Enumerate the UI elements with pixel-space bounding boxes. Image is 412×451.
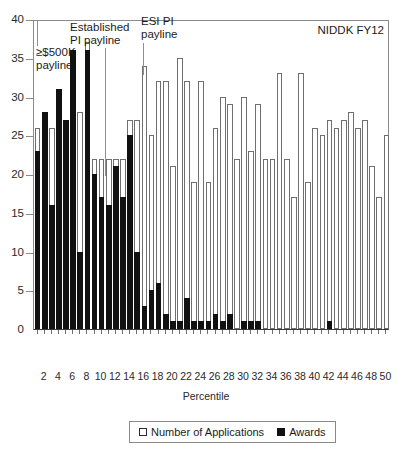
payline-leader-line (143, 43, 144, 75)
bar-awards (241, 321, 247, 329)
bar-slot (348, 19, 354, 329)
x-tick (79, 330, 80, 334)
y-tick (26, 98, 33, 99)
bar-awards (170, 321, 176, 329)
y-tick-label: 20 (0, 169, 24, 181)
bar-applications (234, 159, 240, 330)
bar-applications (255, 104, 261, 329)
bar-slot (334, 19, 340, 329)
corner-label: NIDDK FY12 (318, 24, 384, 36)
x-tick (122, 330, 123, 334)
y-tick (26, 291, 33, 292)
bar-awards (134, 252, 140, 330)
bar-applications (170, 166, 176, 329)
x-tick (243, 330, 244, 334)
bar-slot (241, 19, 247, 329)
bar-slot (291, 19, 297, 329)
plot-area (33, 20, 389, 330)
x-tick (200, 330, 201, 334)
y-tick-label: 10 (0, 247, 24, 259)
payline-leader-line (105, 48, 106, 176)
x-tick (165, 330, 166, 334)
bar-applications (163, 81, 169, 329)
x-tick (222, 330, 223, 334)
y-tick-label: 15 (0, 208, 24, 220)
bar-applications (220, 97, 226, 330)
x-tick (86, 330, 87, 334)
bar-slot (234, 19, 240, 329)
x-tick (51, 330, 52, 334)
bar-awards (227, 314, 233, 330)
bar-slot (163, 19, 169, 329)
y-tick (26, 20, 33, 21)
payline-annotation-label: ESI PI payline (141, 15, 177, 41)
bar-slot (305, 19, 311, 329)
payline-annotation-label: Established PI payline (70, 21, 129, 47)
bar-slot (355, 19, 361, 329)
bar-awards (42, 112, 48, 329)
y-tick-label: 35 (0, 53, 24, 65)
payline-leader-line (37, 20, 38, 46)
bar-slot (213, 19, 219, 329)
bar-applications (191, 182, 197, 329)
legend-label-awards: Awards (289, 426, 325, 438)
bar-slot (156, 19, 162, 329)
x-tick-label: 50 (377, 371, 393, 382)
bar-awards (77, 252, 83, 330)
bar-applications (213, 128, 219, 330)
bar-slot (384, 19, 390, 329)
bar-awards (120, 197, 126, 329)
x-axis-title: Percentile (0, 390, 412, 402)
bar-slot (92, 19, 98, 329)
bar-applications (384, 135, 390, 329)
bar-awards (177, 321, 183, 329)
bar-applications (177, 58, 183, 329)
x-tick (385, 330, 386, 334)
x-tick (314, 330, 315, 334)
x-tick (343, 330, 344, 334)
x-tick (150, 330, 151, 334)
x-tick (193, 330, 194, 334)
bar-slot (227, 19, 233, 329)
legend-item-awards: Awards (277, 426, 325, 438)
bar-awards (85, 50, 91, 329)
x-tick (44, 330, 45, 334)
payline-annotation-label: ≥$500K payline (36, 46, 76, 72)
bar-slot (376, 19, 382, 329)
bar-awards (213, 314, 219, 330)
bar-applications (277, 73, 283, 329)
bar-applications (355, 128, 361, 330)
bar-applications (320, 135, 326, 329)
bar-awards (113, 166, 119, 329)
bar-slot (149, 19, 155, 329)
bar-awards (149, 290, 155, 329)
bar-applications (198, 81, 204, 329)
bar-applications (341, 120, 347, 329)
x-tick (364, 330, 365, 334)
bar-awards (35, 151, 41, 329)
bar-slot (312, 19, 318, 329)
bar-slot (170, 19, 176, 329)
bar-awards (127, 135, 133, 329)
x-tick (143, 330, 144, 334)
bar-slot (369, 19, 375, 329)
bar-slot (184, 19, 190, 329)
x-tick (58, 330, 59, 334)
filled-square-icon (277, 428, 285, 436)
y-tick-label: 25 (0, 130, 24, 142)
x-tick (65, 330, 66, 334)
bar-applications (206, 182, 212, 329)
bar-awards (163, 314, 169, 330)
bar-slot (85, 19, 91, 329)
y-tick (26, 214, 33, 215)
x-tick (293, 330, 294, 334)
x-tick (158, 330, 159, 334)
bar-applications (334, 128, 340, 330)
y-tick (26, 136, 33, 137)
x-tick (94, 330, 95, 334)
x-tick (350, 330, 351, 334)
x-tick (115, 330, 116, 334)
legend-item-applications: Number of Applications (139, 426, 264, 438)
bar-applications (284, 159, 290, 330)
x-tick (321, 330, 322, 334)
